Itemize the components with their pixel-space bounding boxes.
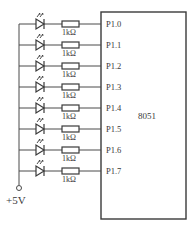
resistor-label: 1kΩ <box>62 70 76 79</box>
led-icon <box>36 40 44 50</box>
led-row: 1kΩP1.1 <box>19 34 121 58</box>
resistor-icon <box>62 42 79 48</box>
resistor-label: 1kΩ <box>62 91 76 100</box>
led-row: 1kΩP1.3 <box>19 76 121 100</box>
led-icon <box>36 145 44 155</box>
port-label: P1.4 <box>106 103 122 113</box>
resistor-label: 1kΩ <box>62 112 76 121</box>
led-icon <box>36 82 44 92</box>
chip-label: 8051 <box>138 111 156 121</box>
resistor-label: 1kΩ <box>62 28 76 37</box>
resistor-icon <box>62 84 79 90</box>
resistor-label: 1kΩ <box>62 133 76 142</box>
port-label: P1.6 <box>106 145 121 155</box>
led-row: 1kΩP1.6 <box>19 139 121 163</box>
port-label: P1.1 <box>106 40 121 50</box>
led-icon <box>36 61 44 71</box>
resistor-icon <box>62 63 79 69</box>
port-label: P1.7 <box>106 166 121 176</box>
led-icon <box>36 103 44 113</box>
led-row: 1kΩP1.5 <box>19 118 121 142</box>
led-circuit-diagram: 8051 +5V 1kΩP1.01kΩP1.11kΩP1.21kΩP1.31kΩ… <box>0 0 196 227</box>
led-row: 1kΩP1.4 <box>19 97 122 121</box>
resistor-icon <box>62 147 79 153</box>
led-icon <box>36 19 44 29</box>
resistor-label: 1kΩ <box>62 49 76 58</box>
port-label: P1.2 <box>106 61 121 71</box>
resistor-icon <box>62 105 79 111</box>
port-label: P1.5 <box>106 124 121 134</box>
led-icon <box>36 124 44 134</box>
resistor-icon <box>62 168 79 174</box>
port-label: P1.0 <box>106 19 121 29</box>
resistor-icon <box>62 126 79 132</box>
led-row: 1kΩP1.7 <box>19 160 121 184</box>
supply-label: +5V <box>6 194 26 206</box>
supply-terminal <box>17 186 22 191</box>
port-label: P1.3 <box>106 82 121 92</box>
led-row: 1kΩP1.0 <box>19 13 121 37</box>
led-icon <box>36 166 44 176</box>
led-row: 1kΩP1.2 <box>19 55 121 79</box>
resistor-icon <box>62 21 79 27</box>
resistor-label: 1kΩ <box>62 154 76 163</box>
resistor-label: 1kΩ <box>62 175 76 184</box>
